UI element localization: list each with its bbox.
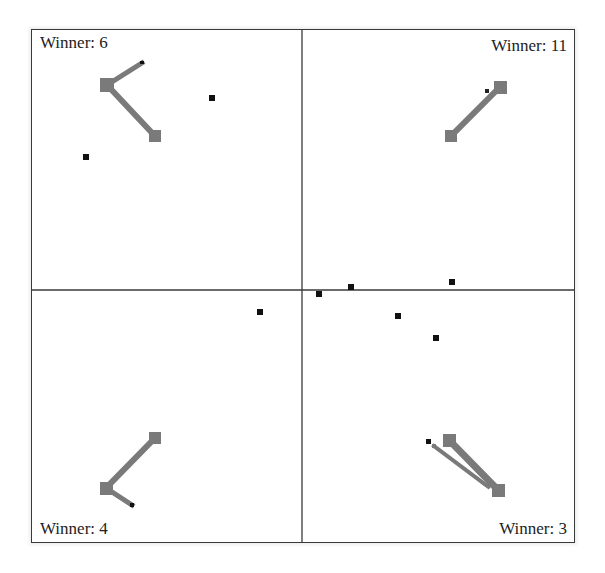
- data-point: [316, 291, 322, 297]
- data-point: [449, 279, 455, 285]
- winner-label-top-left: Winner: 6: [40, 33, 108, 53]
- data-point: [257, 309, 263, 315]
- data-point: [83, 154, 89, 160]
- trail-winner-6: [100, 61, 161, 142]
- kohonen-map-plot: [0, 0, 605, 573]
- winner-label-bottom-right: Winner: 3: [499, 519, 567, 539]
- data-points: [83, 95, 455, 341]
- data-point: [209, 95, 215, 101]
- winner-label-bottom-left: Winner: 4: [40, 519, 108, 539]
- data-point: [348, 284, 354, 290]
- trail-winner-4: [100, 432, 161, 507]
- data-point: [395, 313, 401, 319]
- trail-winner-11: [445, 81, 507, 142]
- trail-winner-3: [426, 434, 505, 497]
- winner-label-top-right: Winner: 11: [491, 36, 567, 56]
- data-point: [433, 335, 439, 341]
